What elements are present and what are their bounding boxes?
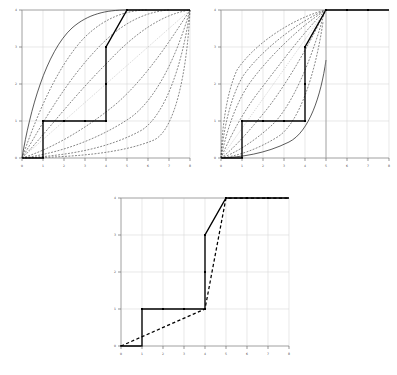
x-tick-label-6: 6 <box>246 352 248 356</box>
x-ticks-top-right: 0 1 2 3 4 5 6 7 8 <box>220 158 390 168</box>
step-marker-3 <box>84 120 86 122</box>
step-marker-9 <box>267 197 269 199</box>
y-ticks-bottom: 0 1 2 3 4 <box>114 196 121 348</box>
step-marker-3 <box>283 120 285 122</box>
y-tick-label-1: 1 <box>214 119 216 123</box>
x-tick-label-1: 1 <box>141 352 143 356</box>
step-marker-8 <box>246 197 248 199</box>
step-marker-2 <box>63 120 65 122</box>
x-tick-label-0: 0 <box>21 164 23 168</box>
y-tick-label-1: 1 <box>114 307 116 311</box>
x-tick-label-6: 6 <box>346 164 348 168</box>
step-marker-4 <box>304 120 306 122</box>
y-tick-label-3: 3 <box>114 233 116 237</box>
x-tick-label-8: 8 <box>189 164 191 168</box>
plot-top-right: 0 1 2 3 4 5 6 7 8 0 1 2 3 4 <box>199 0 397 188</box>
y-tick-label-4: 4 <box>214 8 216 12</box>
x-tick-label-4: 4 <box>105 164 107 168</box>
x-tick-label-5: 5 <box>225 352 227 356</box>
x-tick-label-8: 8 <box>388 164 390 168</box>
x-ticks-top-left: 0 1 2 3 4 5 6 7 8 <box>21 158 191 168</box>
y-tick-label-2: 2 <box>114 270 116 274</box>
x-tick-label-1: 1 <box>42 164 44 168</box>
x-tick-label-3: 3 <box>84 164 86 168</box>
x-tick-label-2: 2 <box>63 164 65 168</box>
panel-bottom: 0 1 2 3 4 5 6 7 8 0 1 2 3 4 <box>99 188 297 375</box>
x-tick-label-7: 7 <box>267 352 269 356</box>
x-tick-label-5: 5 <box>126 164 128 168</box>
x-tick-label-4: 4 <box>204 352 206 356</box>
x-tick-label-8: 8 <box>288 352 290 356</box>
y-tick-label-2: 2 <box>15 82 17 86</box>
step-marker-5 <box>105 83 107 85</box>
x-tick-label-5: 5 <box>325 164 327 168</box>
step-marker-9 <box>367 9 369 11</box>
step-marker-7 <box>325 9 327 11</box>
y-tick-label-4: 4 <box>114 196 116 200</box>
step-marker-6 <box>105 46 107 48</box>
plot-top-left: 0 1 2 3 4 5 6 7 8 0 1 2 3 4 <box>0 0 198 188</box>
x-tick-label-6: 6 <box>147 164 149 168</box>
step-marker-5 <box>304 83 306 85</box>
y-tick-label-3: 3 <box>15 45 17 49</box>
x-tick-label-0: 0 <box>120 352 122 356</box>
step-marker-2 <box>262 120 264 122</box>
y-tick-label-1: 1 <box>15 119 17 123</box>
step-marker-1 <box>141 308 143 310</box>
x-tick-label-7: 7 <box>168 164 170 168</box>
step-marker-7 <box>126 9 128 11</box>
step-marker-1 <box>42 120 44 122</box>
x-tick-label-2: 2 <box>162 352 164 356</box>
step-marker-4 <box>204 308 206 310</box>
y-tick-label-4: 4 <box>15 8 17 12</box>
step-marker-5 <box>204 271 206 273</box>
step-marker-1 <box>241 120 243 122</box>
convex-interp-1 <box>221 60 326 158</box>
y-tick-label-2: 2 <box>214 82 216 86</box>
panel-top-left: 0 1 2 3 4 5 6 7 8 0 1 2 3 4 <box>0 0 198 188</box>
step-marker-6 <box>204 234 206 236</box>
y-tick-label-0: 0 <box>114 344 116 348</box>
y-tick-label-3: 3 <box>214 45 216 49</box>
step-marker-4 <box>105 120 107 122</box>
figure-three-panel-step-interpolation: 0 1 2 3 4 5 6 7 8 0 1 2 3 4 <box>0 0 397 375</box>
step-marker-8 <box>346 9 348 11</box>
step-marker-6 <box>304 46 306 48</box>
x-tick-label-3: 3 <box>183 352 185 356</box>
plot-bottom: 0 1 2 3 4 5 6 7 8 0 1 2 3 4 <box>99 188 297 375</box>
step-marker-7 <box>225 197 227 199</box>
step-marker-3 <box>183 308 185 310</box>
y-ticks-top-right: 0 1 2 3 4 <box>214 8 221 160</box>
x-tick-label-3: 3 <box>283 164 285 168</box>
x-tick-label-2: 2 <box>262 164 264 168</box>
x-tick-label-0: 0 <box>220 164 222 168</box>
y-ticks-top-left: 0 1 2 3 4 <box>15 8 22 160</box>
x-tick-label-7: 7 <box>367 164 369 168</box>
x-tick-label-4: 4 <box>304 164 306 168</box>
x-tick-label-1: 1 <box>241 164 243 168</box>
y-tick-label-0: 0 <box>214 156 216 160</box>
panel-top-right: 0 1 2 3 4 5 6 7 8 0 1 2 3 4 <box>199 0 397 188</box>
step-marker-2 <box>162 308 164 310</box>
x-ticks-bottom: 0 1 2 3 4 5 6 7 8 <box>120 346 290 356</box>
y-tick-label-0: 0 <box>15 156 17 160</box>
